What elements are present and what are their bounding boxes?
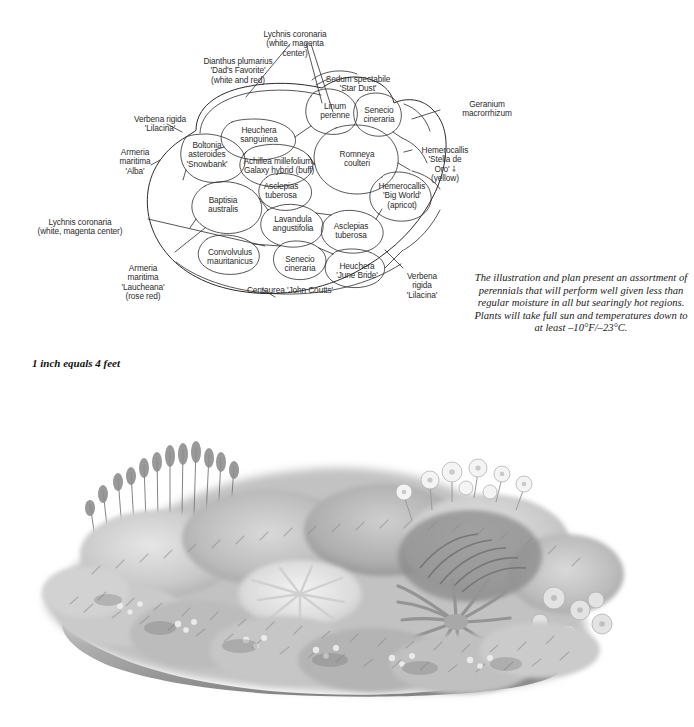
leader-lychnis-left	[148, 219, 265, 246]
edge-join-8	[319, 248, 333, 254]
cell-edge-right-band	[404, 210, 440, 250]
garden-illustration	[0, 378, 694, 727]
garden-illustration-art	[0, 378, 694, 727]
callout-verbena-rigida-left: Verbena rigida 'Lilacina'	[120, 115, 200, 134]
caption-text: The illustration and plan present an ass…	[474, 272, 688, 335]
callout-armeria-maritima-laucheana: Armeria maritima 'Laucheana' (rose red)	[110, 264, 176, 302]
cell-label-asclepias-tuberosa-upper: Asclepias tuberosa	[252, 182, 310, 201]
callout-lychnis-coronaria-top: Lychnis coronaria (white, magenta center…	[241, 30, 349, 58]
cell-label-romneya-coulteri: Romneya coulteri	[328, 150, 386, 169]
scale-note: 1 inch equals 4 feet	[32, 357, 120, 369]
cell-label-hemerocallis-big-world: Hemerocallis 'Big World' (apricot)	[368, 182, 436, 210]
callout-geranium-macrorrhizum: Geranium macrorrhizum	[444, 100, 530, 119]
cell-label-achillea-millefolium: Achillea millefolium, Galaxy hybrid (buf…	[225, 157, 333, 176]
leader-geranium	[412, 110, 440, 119]
edge-join-10	[393, 132, 402, 138]
edge-join-13	[183, 170, 186, 180]
edge-join-12	[190, 219, 196, 228]
cell-label-senecio-cineraria-bottom: Senecio cineraria	[274, 255, 326, 274]
page-root: Lychnis coronaria (white, magenta center…	[0, 0, 694, 727]
cell-label-lavandula-angustifolia: Lavandula angustifolia	[258, 215, 328, 234]
cell-label-linum-perenne: Linum perenne	[309, 102, 361, 121]
cell-label-baptisia-australis: Baptisia australis	[196, 196, 250, 215]
callout-armeria-maritima-alba: Armeria maritima 'Alba'	[108, 148, 162, 176]
callout-dianthus-plumarius: Dianthus plumarius 'Dad's Favorite' (whi…	[178, 57, 298, 85]
callout-sedum-spectabile: Sedum spectabile 'Star Dust'	[305, 75, 411, 94]
cell-label-senecio-cineraria-top: Senecio cineraria	[355, 106, 403, 125]
cell-label-asclepias-tuberosa-lower: Asclepias tuberosa	[322, 222, 380, 241]
callout-hemerocallis-stella-de-oro: Hemerocallis 'Stella de Oro' ⸸ (yellow)	[409, 146, 481, 184]
edge-join-6	[376, 209, 382, 219]
cell-label-convolvulus-mauritanicus: Convolvulus mauritanicus	[196, 248, 264, 267]
callout-lychnis-coronaria-left: Lychnis coronaria (white, magenta center…	[12, 218, 148, 237]
edge-join-2	[295, 126, 311, 137]
cell-label-centaurea-john-coutts: Centaurea 'John Coutts'	[222, 286, 358, 295]
right-dark-mound	[398, 510, 542, 602]
cell-label-heuchera-june-bride: Heuchera 'June Bride'	[326, 262, 388, 281]
callout-verbena-rigida-right: Verbena rigida 'Lilacina'	[396, 272, 448, 300]
